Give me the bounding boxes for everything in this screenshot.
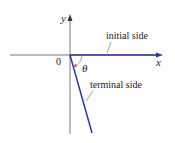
angle-diagram: y x 0 θ initial side terminal side	[0, 0, 175, 143]
angle-arc	[73, 55, 82, 67]
initial-side-label: initial side	[106, 30, 149, 41]
y-axis-label: y	[60, 12, 66, 24]
initial-side-leader	[107, 42, 111, 53]
y-axis-arrow-icon	[68, 14, 73, 21]
angle-label: θ	[82, 62, 88, 74]
terminal-side-leader	[86, 91, 93, 101]
terminal-side-label: terminal side	[90, 79, 142, 90]
x-axis-label: x	[155, 56, 161, 68]
origin-label: 0	[56, 56, 61, 67]
